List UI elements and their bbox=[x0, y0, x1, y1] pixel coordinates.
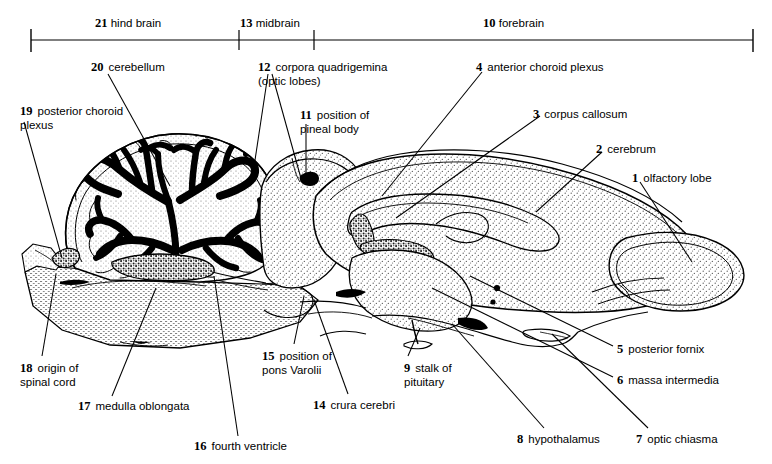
callout-9-pituitary-stalk: 9stalk of pituitary bbox=[404, 362, 452, 389]
callout-1-olfactory-lobe: 1olfactory lobe bbox=[632, 172, 712, 186]
callout-3-corpus-callosum: 3corpus callosum bbox=[533, 108, 627, 122]
callout-9-text: stalk of pituitary bbox=[404, 362, 452, 388]
optic-chiasma bbox=[523, 329, 570, 341]
callout-18-origin-of-spinal-cord: 18origin of spinal cord bbox=[20, 362, 78, 389]
callout-1-number: 1 bbox=[632, 171, 638, 185]
callout-2-cerebrum: 2cerebrum bbox=[596, 143, 656, 157]
callout-20-text: cerebellum bbox=[109, 61, 165, 73]
callout-9-number: 9 bbox=[404, 361, 410, 375]
callout-16-fourth-ventricle: 16fourth ventricle bbox=[194, 440, 287, 454]
callout-8-number: 8 bbox=[517, 432, 523, 446]
callout-17-medulla-oblongata: 17medulla oblongata bbox=[78, 400, 190, 414]
callout-15-pons-varolii: 15position of pons Varolii bbox=[262, 350, 332, 377]
callout-4-number: 4 bbox=[476, 60, 482, 74]
scale-region-midbrain: 13 midbrain bbox=[240, 16, 300, 31]
callout-5-posterior-fornix: 5posterior fornix bbox=[617, 343, 704, 357]
callout-4-anterior-choroid-plexus: 4anterior choroid plexus bbox=[476, 61, 604, 75]
callout-3-number: 3 bbox=[533, 107, 539, 121]
callout-2-text: cerebrum bbox=[607, 143, 656, 155]
callout-20-cerebellum: 20cerebellum bbox=[91, 61, 165, 75]
callout-8-text: hypothalamus bbox=[528, 433, 600, 445]
callout-17-text: medulla oblongata bbox=[96, 400, 190, 412]
callout-11-pineal-body: 11position of pineal body bbox=[300, 109, 369, 136]
callout-7-optic-chiasma: 7optic chiasma bbox=[636, 433, 718, 447]
scale-region-midbrain-number: 13 bbox=[240, 16, 253, 30]
callout-5-text: posterior fornix bbox=[628, 343, 704, 355]
callout-17-number: 17 bbox=[78, 399, 91, 413]
scale-region-midbrain-label: midbrain bbox=[256, 17, 300, 29]
scale-region-forebrain: 10 forebrain bbox=[483, 16, 544, 31]
callout-14-text: crura cerebri bbox=[331, 399, 396, 411]
callout-19-text: posterior choroid plexus bbox=[20, 105, 123, 131]
callout-14-crura-cerebri: 14crura cerebri bbox=[313, 399, 395, 413]
scale-region-hind-brain: 21 hind brain bbox=[95, 16, 161, 31]
callout-19-number: 19 bbox=[20, 104, 33, 118]
callout-14-number: 14 bbox=[313, 398, 326, 412]
callout-12-corpora-quadrigemina: 12corpora quadrigemina (optic lobes) bbox=[258, 61, 387, 88]
callout-7-text: optic chiasma bbox=[647, 433, 717, 445]
callout-5-number: 5 bbox=[617, 342, 623, 356]
callout-19-posterior-choroid-plexus: 19posterior choroid plexus bbox=[20, 105, 123, 132]
callout-8-hypothalamus: 8hypothalamus bbox=[517, 433, 600, 447]
callout-7-number: 7 bbox=[636, 432, 642, 446]
callout-12-text: corpora quadrigemina (optic lobes) bbox=[258, 61, 387, 87]
callout-15-number: 15 bbox=[262, 349, 275, 363]
callout-2-number: 2 bbox=[596, 142, 602, 156]
callout-3-text: corpus callosum bbox=[544, 108, 627, 120]
callout-1-text: olfactory lobe bbox=[643, 172, 711, 184]
scale-region-hind-brain-number: 21 bbox=[95, 16, 108, 30]
callout-16-number: 16 bbox=[194, 439, 207, 453]
scale-region-forebrain-number: 10 bbox=[483, 16, 496, 30]
callout-18-number: 18 bbox=[20, 361, 33, 375]
callout-11-number: 11 bbox=[300, 108, 312, 122]
callout-12-number: 12 bbox=[258, 60, 271, 74]
scale-region-forebrain-label: forebrain bbox=[499, 17, 544, 29]
brain-section-figure: 21 hind brain 13 midbrain 10 forebrain 2… bbox=[0, 0, 772, 464]
callout-16-text: fourth ventricle bbox=[212, 440, 287, 452]
callout-6-text: massa intermedia bbox=[628, 374, 719, 386]
callout-20-number: 20 bbox=[91, 60, 104, 74]
scale-bar bbox=[31, 29, 753, 52]
callout-6-number: 6 bbox=[617, 373, 623, 387]
callout-4-text: anterior choroid plexus bbox=[487, 61, 603, 73]
scale-region-hind-brain-label: hind brain bbox=[111, 17, 162, 29]
callout-6-massa-intermedia: 6massa intermedia bbox=[617, 374, 719, 388]
